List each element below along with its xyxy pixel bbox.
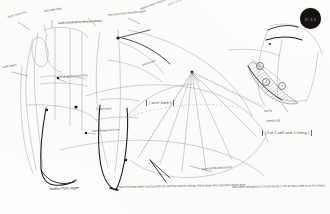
circled-number: 2	[262, 78, 270, 86]
center-label: [ skirt flare ]	[146, 100, 174, 106]
corner-stamp: 0–13	[300, 8, 321, 29]
corner-stamp-label: 0–13	[305, 16, 317, 21]
sketch-canvas	[0, 0, 330, 214]
markers-and-dots	[46, 36, 271, 161]
ink-outlines	[41, 26, 302, 190]
hatched-pattern-area	[248, 62, 298, 104]
circled-number: 1	[256, 62, 264, 70]
leader-lines	[12, 18, 288, 172]
notch-marker	[116, 36, 119, 39]
circled-number: 3	[278, 82, 286, 90]
annotation-center-low: [ slash line ]	[96, 107, 112, 111]
annotation-right-bracket: [ cut 2 self and 2 lining ]	[262, 130, 312, 136]
annotation-right-1: facing	[264, 109, 272, 113]
dashed-guides	[126, 72, 264, 154]
drawing-sheet: 0–13 front neck line shoulder dart slash…	[0, 0, 330, 214]
